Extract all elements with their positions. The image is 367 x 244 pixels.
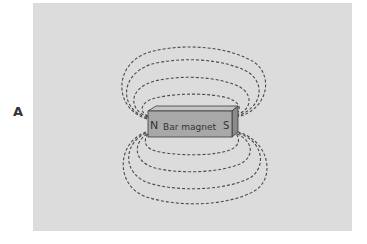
magnetic-field-figure: A N Bar magnet S — [0, 0, 367, 244]
bar-magnet: N Bar magnet S — [148, 106, 238, 137]
south-pole-label: S — [223, 120, 229, 131]
magnet-side-face — [232, 106, 238, 137]
field-diagram: N Bar magnet S — [0, 0, 367, 244]
field-line-below-2 — [137, 134, 250, 172]
field-line-below-4 — [123, 132, 267, 204]
field-line-below-3 — [129, 133, 261, 189]
magnet-label: Bar magnet — [163, 122, 216, 132]
magnet-top-face — [148, 106, 238, 111]
north-pole-label: N — [150, 119, 158, 132]
field-lines-below — [123, 132, 267, 204]
